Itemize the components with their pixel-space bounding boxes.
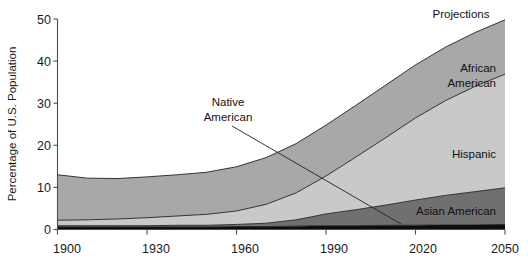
- x-tick-label-2050: 2050: [491, 242, 519, 256]
- asian-american-label: Asian American: [416, 205, 496, 217]
- y-tick-label-0: 0: [44, 223, 51, 237]
- y-tick-label-10: 10: [37, 181, 51, 195]
- y-tick-label-40: 40: [37, 55, 51, 69]
- y-tick-label-50: 50: [37, 13, 51, 27]
- chart-container: 50 40 30 20 10 0 1900 1930 1960 1990 202…: [0, 0, 528, 267]
- y-tick-label-30: 30: [37, 97, 51, 111]
- x-tick-label-1930: 1930: [142, 242, 170, 256]
- hispanic-label: Hispanic: [452, 148, 496, 160]
- x-tick-label-2020: 2020: [409, 242, 437, 256]
- native-american-label-line1: Native: [212, 96, 245, 108]
- african-american-label-line1: African: [460, 62, 496, 74]
- african-american-label-line2: American: [447, 77, 496, 89]
- projections-label: Projections: [433, 8, 490, 20]
- stacked-area-chart: 50 40 30 20 10 0 1900 1930 1960 1990 202…: [0, 0, 528, 267]
- y-tick-label-20: 20: [37, 139, 51, 153]
- y-axis-title: Percentage of U.S. Population: [6, 47, 18, 202]
- x-tick-label-1960: 1960: [231, 242, 259, 256]
- native-american-label-line2: American: [204, 111, 253, 123]
- x-tick-label-1990: 1990: [320, 242, 348, 256]
- x-tick-label-1900: 1900: [53, 242, 81, 256]
